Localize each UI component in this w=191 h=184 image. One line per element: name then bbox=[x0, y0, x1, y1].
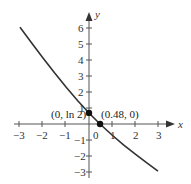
point-y-intercept bbox=[86, 110, 92, 116]
svg-text:6: 6 bbox=[78, 22, 84, 34]
svg-text:−3: −3 bbox=[74, 166, 86, 178]
y-tick-labels: 6 5 4 3 2 1 −1 −2 −3 bbox=[74, 22, 86, 178]
svg-text:−2: −2 bbox=[36, 129, 48, 141]
svg-text:3: 3 bbox=[78, 70, 84, 82]
x-axis-arrow-icon bbox=[166, 121, 175, 128]
svg-text:2: 2 bbox=[133, 129, 139, 141]
point-x-intercept bbox=[97, 121, 103, 127]
svg-text:0: 0 bbox=[93, 129, 99, 141]
svg-text:−1: −1 bbox=[59, 129, 71, 141]
y-axis-arrow-icon bbox=[86, 12, 93, 21]
x-tick-labels: −3 −2 −1 0 1 2 3 bbox=[13, 129, 162, 141]
svg-text:−3: −3 bbox=[13, 129, 25, 141]
chart-canvas: x y −3 −2 −1 0 1 2 3 6 5 4 3 2 1 bbox=[0, 0, 191, 184]
svg-text:3: 3 bbox=[156, 129, 162, 141]
svg-text:2: 2 bbox=[78, 86, 84, 98]
label-y-intercept: (0, ln 2) bbox=[51, 108, 86, 121]
label-x-intercept: (0.48, 0) bbox=[101, 108, 139, 121]
y-axis-label: y bbox=[94, 8, 100, 20]
svg-text:−1: −1 bbox=[74, 134, 86, 146]
svg-text:−2: −2 bbox=[74, 150, 86, 162]
svg-text:5: 5 bbox=[78, 38, 84, 50]
svg-text:4: 4 bbox=[78, 54, 84, 66]
x-axis-label: x bbox=[177, 118, 183, 130]
